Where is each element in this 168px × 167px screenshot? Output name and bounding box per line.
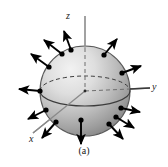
vector-arrow xyxy=(44,40,62,54)
normal-vector xyxy=(31,54,52,70)
sphere-flux-figure: z y x (a) xyxy=(0,0,168,167)
z-axis-label: z xyxy=(66,11,70,21)
vector-arrow xyxy=(104,39,117,55)
vector-arrow xyxy=(19,89,40,91)
origin-dot xyxy=(84,90,87,93)
vector-arrow xyxy=(64,31,71,50)
y-axis-label: y xyxy=(152,82,156,92)
vector-arrow xyxy=(109,124,123,139)
vector-arrow xyxy=(28,110,46,119)
normal-vector xyxy=(19,88,43,93)
normal-vector xyxy=(64,31,74,53)
figure-canvas xyxy=(0,0,168,167)
vector-arrow xyxy=(116,117,134,128)
figure-caption: (a) xyxy=(0,145,168,156)
normal-vector xyxy=(42,119,59,138)
x-axis-label: x xyxy=(29,134,33,144)
vector-arrow xyxy=(31,54,49,67)
normal-vector xyxy=(44,40,65,57)
